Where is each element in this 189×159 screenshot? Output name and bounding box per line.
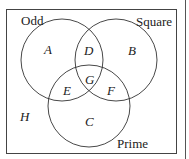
- region-e: E: [62, 83, 71, 98]
- region-a: A: [43, 42, 52, 57]
- odd-circle: [21, 19, 103, 101]
- set-label-prime: Prime: [117, 136, 148, 151]
- region-d: D: [83, 43, 94, 58]
- region-h: H: [19, 109, 30, 124]
- set-label-odd: Odd: [21, 13, 44, 28]
- region-f: F: [106, 83, 116, 98]
- region-c: C: [85, 114, 94, 129]
- region-g: G: [85, 72, 95, 87]
- venn-diagram: Odd Square Prime A D B G E F H C: [0, 0, 189, 159]
- square-circle: [75, 19, 157, 101]
- set-label-square: Square: [136, 14, 172, 29]
- region-b: B: [128, 43, 136, 58]
